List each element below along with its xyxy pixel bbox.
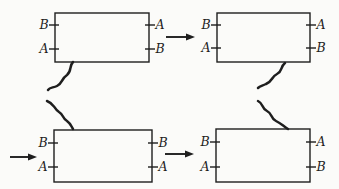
box-bottom-right xyxy=(216,129,310,182)
figure: BAABBAABBBAABAAB xyxy=(0,0,339,189)
box-top-left-left-label-0: B xyxy=(38,17,48,32)
box-bottom-right-right-label-1: B xyxy=(315,159,325,174)
box-bottom-left-right-label-1: A xyxy=(157,159,167,174)
box-top-left-right-label-1: B xyxy=(154,41,164,56)
box-bottom-left-left-label-0: B xyxy=(37,135,47,150)
box-top-right-right-label-0: A xyxy=(315,17,325,32)
box-top-right-left-label-1: A xyxy=(200,40,210,55)
box-bottom-right-right-label-0: A xyxy=(315,134,325,149)
squiggle-right-lower xyxy=(258,101,288,129)
box-top-right-right-label-1: B xyxy=(315,40,325,55)
box-bottom-left-right-label-0: B xyxy=(157,135,167,150)
box-top-right-left-label-0: B xyxy=(200,17,210,32)
box-bottom-right-left-label-1: A xyxy=(199,159,209,174)
chromosome-boxes-diagram: BAABBAABBBAABAAB xyxy=(0,0,339,189)
arrow-left-edge-head xyxy=(28,154,37,161)
box-bottom-left xyxy=(54,130,152,182)
squiggle-left-upper xyxy=(48,62,73,90)
box-top-left-left-label-1: A xyxy=(38,41,48,56)
box-bottom-left-left-label-1: A xyxy=(37,159,47,174)
box-bottom-right-left-label-0: B xyxy=(199,134,209,149)
box-top-left-right-label-0: A xyxy=(154,17,164,32)
squiggle-right-upper xyxy=(258,63,285,88)
arrow-top-middle-head xyxy=(186,34,195,41)
arrow-bottom-middle-head xyxy=(185,151,194,158)
squiggle-left-lower xyxy=(47,101,73,129)
box-top-left xyxy=(55,13,149,62)
box-top-right xyxy=(217,13,310,62)
